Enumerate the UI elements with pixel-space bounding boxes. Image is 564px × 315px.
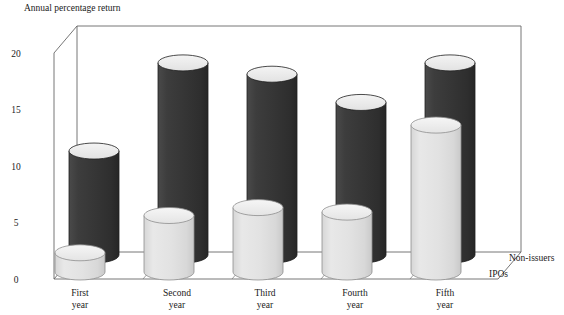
y-axis-title: Annual percentage return — [24, 3, 121, 13]
cylinder-top — [158, 55, 208, 71]
cat-label-4-line1: Fourth — [342, 288, 368, 298]
cylinder-top — [69, 143, 119, 159]
cat-label-4-line2: year — [347, 300, 364, 310]
bar-ipos-5 — [411, 117, 461, 280]
y-tick-5: 5 — [14, 218, 19, 228]
y-axis-ticks: 0 5 10 15 20 — [11, 49, 21, 285]
legend: Non-issuers IPOs — [489, 253, 555, 279]
cylinder-top — [144, 208, 194, 224]
bar-ipos-3 — [233, 200, 283, 280]
cat-label-3-line1: Third — [254, 288, 275, 298]
cat-label-5-line2: year — [437, 300, 454, 310]
cylinder-body — [233, 208, 283, 280]
legend-item-ipos[interactable]: IPOs — [489, 269, 508, 279]
y-tick-10: 10 — [11, 162, 21, 172]
chart-canvas: Annual percentage return 0 5 10 15 20 Fi… — [0, 0, 564, 315]
y-tick-20: 20 — [11, 49, 21, 59]
bar-ipos-1 — [55, 245, 105, 280]
bar-ipos-2 — [144, 208, 194, 281]
cylinder-body — [144, 216, 194, 281]
cat-label-5-line1: Fifth — [436, 288, 455, 298]
bar-ipos-4 — [322, 204, 372, 280]
legend-item-non-issuers[interactable]: Non-issuers — [509, 253, 555, 263]
cat-label-2-line1: Second — [163, 288, 191, 298]
cat-label-1-line1: First — [71, 288, 89, 298]
cylinder-bar-chart: Annual percentage return 0 5 10 15 20 Fi… — [0, 0, 564, 315]
bars-layer — [55, 55, 475, 280]
cylinder-body — [322, 212, 372, 280]
cylinder-top — [411, 117, 461, 133]
cylinder-top — [55, 245, 105, 261]
cat-label-2-line2: year — [169, 300, 186, 310]
cylinder-top — [336, 94, 386, 110]
cylinder-top — [247, 66, 297, 82]
x-axis-category-labels: First year Second year Third year Fourth… — [71, 288, 454, 310]
cylinder-top — [233, 200, 283, 216]
depth-line-top-left — [54, 26, 77, 53]
y-tick-15: 15 — [11, 105, 21, 115]
cat-label-1-line2: year — [72, 300, 89, 310]
cat-label-3-line2: year — [257, 300, 274, 310]
cylinder-top — [425, 55, 475, 71]
y-tick-0: 0 — [14, 275, 19, 285]
cylinder-top — [322, 204, 372, 220]
cylinder-body — [411, 125, 461, 280]
